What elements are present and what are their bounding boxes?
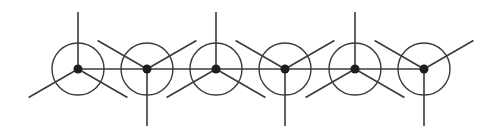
node-dot	[281, 65, 290, 74]
node-6	[375, 41, 474, 127]
node-2	[98, 41, 197, 127]
node-4	[236, 41, 335, 127]
node-3	[167, 12, 266, 98]
node-5	[306, 12, 405, 98]
node-dot	[351, 65, 360, 74]
node-1	[29, 12, 128, 98]
node-dot	[212, 65, 221, 74]
node-dot	[143, 65, 152, 74]
chain-diagram	[0, 0, 493, 131]
node-dot	[74, 65, 83, 74]
node-dot	[420, 65, 429, 74]
